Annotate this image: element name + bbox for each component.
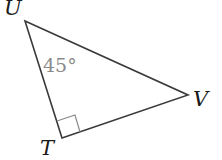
angle-label-U: 45°: [43, 54, 77, 76]
triangle-UTV: [25, 21, 188, 138]
right-angle-marker: [57, 115, 80, 132]
vertex-label-V: V: [193, 87, 210, 111]
vertex-label-T: T: [40, 136, 56, 160]
vertex-label-U: U: [4, 0, 23, 20]
triangle-diagram: 45° U V T: [0, 0, 222, 160]
